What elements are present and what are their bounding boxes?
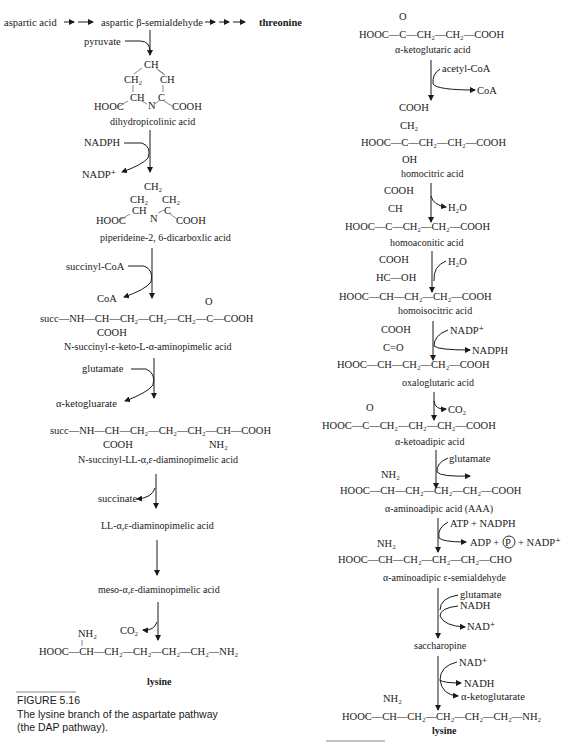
amino-group: NH₂ <box>209 439 228 450</box>
group: OH <box>402 154 418 165</box>
group: COOH <box>379 254 409 265</box>
nadph-label: NADPH <box>472 345 509 356</box>
formula: HOOC—CH—CH₂—CH₂—COOH <box>337 359 490 370</box>
svg-text:CH: CH <box>160 74 175 85</box>
ketoglutarate-label: α-ketoglutarate <box>461 691 525 702</box>
sub-group: COOH <box>97 327 127 338</box>
cosubstrate-arrow <box>434 401 446 409</box>
compound-name: α-ketoglutaric acid <box>395 44 470 55</box>
amino-group: NH₂ <box>381 469 400 480</box>
cosubstrate-arrow <box>124 266 152 297</box>
compound-name: α-aminoadipic acid (AAA) <box>385 503 493 515</box>
amino-group: NH₂ <box>78 628 97 639</box>
svg-text:CH: CH <box>132 205 147 216</box>
formula: HOOC—CH—CH₂—CH₂—CH₂—CH₂—NH₂ <box>39 646 238 657</box>
aspartic-acid-label: aspartic acid <box>4 17 58 28</box>
svg-text:CH₂: CH₂ <box>130 194 149 205</box>
svg-text:CH₂: CH₂ <box>162 194 181 205</box>
group: CH <box>388 203 403 214</box>
svg-text:N: N <box>150 213 158 224</box>
nadph-label: NADPH <box>84 137 121 148</box>
compound-name: piperideine-2, 6-dicarboxlic acid <box>100 232 231 243</box>
coa-label: CoA <box>97 293 117 304</box>
compound-name: LL-α,ε-diaminopimelic acid <box>101 520 214 531</box>
cosubstrate-arrow <box>125 369 154 401</box>
formula: HOOC—CH—CH₂—CH₂—COOH <box>339 291 492 302</box>
pyruvate-label: pyruvate <box>84 36 121 47</box>
cosubstrate-in-arrow <box>125 41 150 52</box>
acetyl-coa-label: acetyl-CoA <box>442 63 491 74</box>
formula: succ—NH—CH—CH₂—CH₂—CH₂—C—COOH <box>40 313 254 324</box>
keto-o: O <box>366 402 374 413</box>
cosubstrate-arrow <box>440 662 461 683</box>
aspartic-semialdehyde-label: aspartic β-semialdehyde <box>101 17 203 28</box>
formula: HOOC—C—CH₂—CH₂—COOH <box>359 29 504 40</box>
lysine-label: lysine <box>147 676 172 687</box>
cosubstrate-arrow <box>143 622 157 630</box>
phosphate-label: P <box>505 537 511 548</box>
threonine-label: threonine <box>259 17 302 28</box>
coa-label: CoA <box>477 85 497 96</box>
figure-caption: The lysine branch of the aspartate pathw… <box>17 708 219 720</box>
group: HC—OH <box>376 272 417 283</box>
nad-label: NAD⁺ <box>467 621 495 632</box>
right-pathway: O HOOC—C—CH₂—CH₂—COOH α-ketoglutaric aci… <box>322 11 561 741</box>
amino-group: NH₂ <box>377 538 396 549</box>
compound-name: homocitric acid <box>401 168 463 179</box>
svg-text:HOOC: HOOC <box>96 215 126 226</box>
lysine-label: lysine <box>432 725 457 736</box>
glutamate-label: glutamate <box>82 363 124 374</box>
formula: HOOC—C—CH₂—CH₂—COOH <box>345 221 490 232</box>
succinate-label: succinate <box>98 493 137 504</box>
figure-caption: (the DAP pathway). <box>17 721 108 733</box>
compound-name: α-aminoadipic ε-semialdehyde <box>383 572 507 583</box>
succinyl-coa-label: succinyl-CoA <box>66 261 125 272</box>
figure-label: FIGURE 5.16 <box>17 694 80 706</box>
sub-group: COOH <box>103 439 133 450</box>
group: C=O <box>383 342 404 353</box>
formula: HOOC—CH—CH₂—CH₂—CH₂—CH₂—NH₂ <box>342 711 541 722</box>
formula: succ—NH—CH—CH₂—CH₂—CH₂—CH—COOH <box>50 425 271 436</box>
compound-name: α-ketoadipic acid <box>395 436 464 447</box>
compound-name: dihydropicolinic acid <box>110 116 195 127</box>
compound-name: N-succinyl-LL-α,ε-diaminopimelic acid <box>78 454 238 465</box>
compound-name: saccharopine <box>414 640 467 651</box>
svg-text:CH₂: CH₂ <box>124 74 143 85</box>
piperideine-structure: CH₂ CH₂ CH₂ CH C N HOOC COOH <box>96 181 206 226</box>
atp-nadph-label: ATP + NADPH <box>450 518 516 529</box>
amino-group: NH₂ <box>383 693 402 704</box>
nadp-label: + NADP⁺ <box>518 537 561 548</box>
compound-name: homoisocitric acid <box>398 305 472 316</box>
h2o-label: H₂O <box>448 202 467 213</box>
adp-label: ADP + <box>470 537 499 548</box>
group: COOH <box>399 102 429 113</box>
left-pathway: aspartic acid aspartic β-semialdehyde th… <box>4 17 302 733</box>
svg-text:COOH: COOH <box>176 215 206 226</box>
compound-name: N-succinyl-ε-keto-L-α-aminopimelic acid <box>64 341 231 352</box>
nad-label: NAD⁺ <box>459 657 487 668</box>
cosubstrate-arrow <box>122 143 149 172</box>
h2o-label: H₂O <box>448 256 467 267</box>
nadh-label: NADH <box>460 600 491 611</box>
svg-text:CH₂: CH₂ <box>144 181 163 192</box>
formula: HOOC—CH—CH₂—CH₂—CH₂—CHO <box>338 554 512 565</box>
group: COOH <box>384 185 414 196</box>
co2-label: CO₂ <box>448 404 467 415</box>
compound-name: meso-α,ε-diaminopimelic acid <box>98 584 220 595</box>
formula: HOOC—C—CH₂—CH₂—CH₂—COOH <box>322 420 496 431</box>
cosubstrate-arrow <box>434 261 446 281</box>
nadp-label: NADP⁺ <box>82 169 116 180</box>
dihydropicolinic-structure: CH CH₂ CH CH C N HOOC COOH <box>94 59 202 112</box>
pathway-diagram: aspartic acid aspartic β-semialdehyde th… <box>0 0 571 746</box>
svg-text:COOH: COOH <box>172 101 202 112</box>
cosubstrate-arrow <box>431 196 446 207</box>
nadp-label: NADP⁺ <box>450 325 484 336</box>
group: CH₂ <box>400 120 419 131</box>
glutamate-label: glutamate <box>460 589 502 600</box>
keto-o: O <box>205 296 213 307</box>
compound-name: oxaloglutaric acid <box>402 377 474 388</box>
cosubstrate-arrow <box>137 488 155 499</box>
compound-name: homoaconitic acid <box>390 237 464 248</box>
ketogluarate-label: α-ketogluarate <box>56 398 117 409</box>
svg-text:N: N <box>148 100 156 111</box>
